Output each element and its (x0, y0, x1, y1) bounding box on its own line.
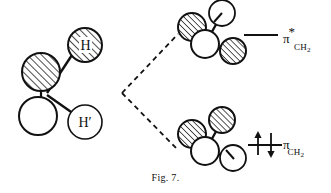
hydrogen-upper-label: H (80, 38, 90, 53)
pi-star-orbital-label: π*CH2 (283, 26, 312, 50)
upper-cluster-sphere-center (191, 30, 219, 58)
reactant-substituent-labels: H H′ (78, 37, 92, 130)
dashed-line-upper (122, 34, 178, 93)
figure-caption: Fig. 7. (0, 172, 331, 183)
upper-lobe-hatched (22, 53, 60, 91)
lower-methylene-cluster (178, 107, 246, 171)
pi-subscript-number: 2 (300, 151, 304, 159)
antibonding-star-symbol: * (289, 24, 296, 39)
orbital-level-pi (248, 131, 282, 158)
dashed-line-lower (122, 93, 178, 150)
electron-spin-up-arrow (254, 131, 261, 155)
lower-cluster-sphere-center (191, 137, 219, 165)
pi-star-subscript-ch: CH (294, 42, 307, 52)
pi-subscript-ch: CH (288, 147, 301, 157)
lower-cluster-sphere-upper-right (209, 107, 235, 133)
hydrogen-lower-label: H′ (78, 115, 91, 130)
pi-star-subscript-number: 2 (307, 46, 311, 54)
pi-orbital-label: πCH2 (283, 136, 306, 155)
figure-7-orbital-correlation-diagram: H H′ (0, 0, 331, 193)
figure-drawing-canvas: H H′ (0, 0, 331, 193)
upper-cluster-sphere-lower-right (220, 38, 246, 64)
dashed-correlation-lines (122, 34, 178, 150)
reactant-orbital-lobes (19, 53, 60, 135)
lower-lobe-white (19, 97, 57, 135)
upper-methylene-cluster (178, 0, 246, 64)
